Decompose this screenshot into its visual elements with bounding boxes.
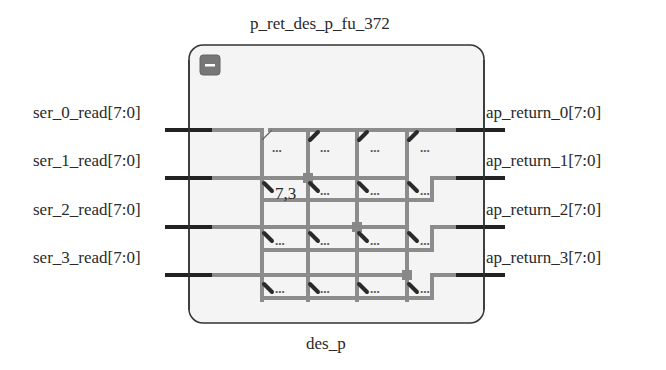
cell-ellipsis: ... [272,138,282,158]
schematic-canvas [0,0,666,370]
cell-ellipsis: ... [420,181,430,201]
cell-ellipsis: ... [320,181,330,201]
cell-ellipsis: ... [370,279,380,299]
cell-ellipsis: ... [320,279,330,299]
minus-icon [205,64,215,67]
cell-ellipsis: ... [370,181,380,201]
cell-ellipsis: ... [420,231,430,251]
cell-ellipsis: ... [275,231,285,251]
cell-ellipsis: ... [275,279,285,299]
cell-ellipsis: ... [320,138,330,158]
cell-ellipsis: ... [370,231,380,251]
bus-label: 7,3 [275,184,296,204]
block-body[interactable] [189,45,484,323]
cell-ellipsis: ... [320,231,330,251]
cell-ellipsis: ... [420,279,430,299]
cell-ellipsis: ... [420,138,430,158]
collapse-button[interactable] [200,55,220,75]
cell-ellipsis: ... [370,138,380,158]
